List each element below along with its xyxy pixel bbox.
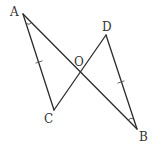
point-label-d: D	[102, 20, 112, 34]
point-label-a: A	[9, 5, 19, 19]
geometry-diagram: A D O C B	[0, 0, 166, 155]
point-label-b: B	[139, 130, 148, 144]
point-label-o: O	[74, 55, 84, 69]
point-label-c: C	[44, 112, 53, 126]
segment-cd	[54, 35, 106, 110]
angle-arc-a	[26, 23, 31, 25]
